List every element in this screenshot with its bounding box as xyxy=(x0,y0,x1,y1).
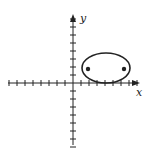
coordinate-plane: y x xyxy=(0,0,145,148)
focus-point-right xyxy=(122,67,126,71)
focus-point-left xyxy=(86,67,90,71)
y-axis-label: y xyxy=(79,12,87,25)
x-axis-label: x xyxy=(136,86,143,99)
y-axis-arrow-icon xyxy=(70,14,76,22)
